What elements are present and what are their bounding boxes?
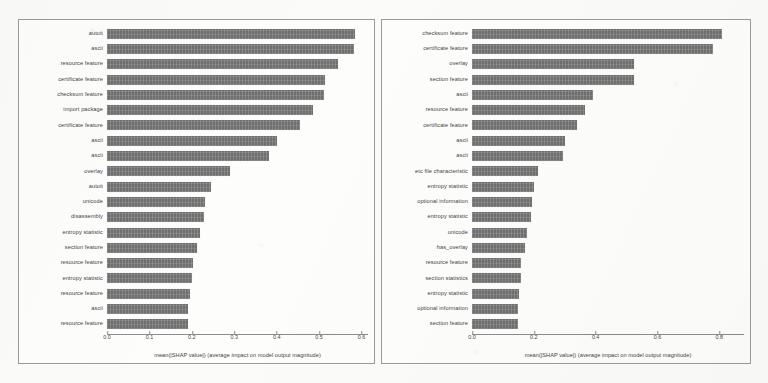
- bar: [472, 105, 585, 115]
- bar: [472, 90, 593, 100]
- bar-label: ascii: [382, 153, 472, 159]
- bar-row: entropy statistic: [19, 225, 374, 240]
- bar-row: entropy statistic: [382, 179, 750, 194]
- bar-row: entropy statistic: [382, 210, 750, 225]
- bar-row: ascii: [19, 301, 374, 316]
- bar-label: entropy statistic: [382, 184, 472, 190]
- bar: [107, 273, 192, 283]
- bar-label: unicode: [382, 230, 472, 236]
- bar-row: entropy statistic: [382, 286, 750, 301]
- bar-label: section feature: [382, 77, 472, 83]
- bar-row: entropy statistic: [19, 271, 374, 286]
- bar-row: unicode: [382, 225, 750, 240]
- bar-row: autoit: [19, 179, 374, 194]
- bar: [472, 243, 525, 253]
- bar-label: section feature: [19, 245, 107, 251]
- bar-label: optional information: [382, 306, 472, 312]
- x-tick-label: 0.2: [188, 335, 196, 340]
- shap-chart-left: autoitasciiresource featurecertificate f…: [18, 19, 375, 364]
- bar: [472, 289, 519, 299]
- bar-row: checksum feature: [382, 26, 750, 41]
- bar-label: resource feature: [382, 260, 472, 266]
- bar-label: ascii: [19, 153, 107, 159]
- x-tick-label: 0.6: [654, 335, 662, 340]
- bar-row: overlay: [382, 57, 750, 72]
- bar-row: resource feature: [19, 255, 374, 270]
- bar: [107, 258, 193, 268]
- bar: [472, 228, 527, 238]
- bar: [472, 319, 518, 329]
- x-tick-label: 0.1: [146, 335, 154, 340]
- bar: [472, 44, 713, 54]
- bar-label: ascii: [19, 138, 107, 144]
- bar-label: resource feature: [19, 260, 107, 266]
- bar: [472, 166, 538, 176]
- bar-label: ascii: [382, 138, 472, 144]
- bar-label: resource feature: [19, 321, 107, 327]
- plot-area-right: checksum featurecertificate featureoverl…: [382, 20, 750, 363]
- bar: [107, 120, 300, 130]
- bar: [472, 151, 563, 161]
- bar-row: section feature: [382, 72, 750, 87]
- bar: [107, 59, 338, 69]
- x-tick-label: 0.0: [103, 335, 111, 340]
- bar-label: checksum feature: [19, 92, 107, 98]
- bar-label: ascii: [382, 92, 472, 98]
- x-tick-label: 0.2: [530, 335, 538, 340]
- bar-label: unicode: [19, 199, 107, 205]
- bar-row: etc file characteristic: [382, 164, 750, 179]
- bar: [472, 197, 532, 207]
- bar-label: autoit: [19, 31, 107, 37]
- bar: [472, 212, 531, 222]
- x-axis-ticks-left: 0.00.10.20.30.40.50.6: [107, 335, 368, 345]
- bar-label: resource feature: [382, 107, 472, 113]
- bar: [107, 105, 313, 115]
- bar-label: overlay: [382, 61, 472, 67]
- bar-label: entropy statistic: [19, 276, 107, 282]
- bar: [107, 166, 230, 176]
- x-tick-label: 0.4: [592, 335, 600, 340]
- bar: [107, 289, 190, 299]
- bar-row: autoit: [19, 26, 374, 41]
- bar-row: overlay: [19, 164, 374, 179]
- bar-row: section statistics: [382, 271, 750, 286]
- bar-label: overlay: [19, 169, 107, 175]
- bar: [107, 243, 197, 253]
- bar-label: certificate feature: [382, 123, 472, 129]
- bar: [107, 136, 277, 146]
- bar-row: resource feature: [19, 317, 374, 332]
- bar-row: certificate feature: [382, 118, 750, 133]
- bar: [107, 197, 205, 207]
- bar-label: disassembly: [19, 214, 107, 220]
- bar-label: entropy statistic: [382, 214, 472, 220]
- bar-row: resource feature: [382, 102, 750, 117]
- bar: [472, 75, 634, 85]
- bar: [472, 29, 722, 39]
- x-axis-title-right: mean(|SHAP value|) (average impact on mo…: [382, 352, 750, 358]
- x-tick-label: 0.8: [716, 335, 724, 340]
- bar-row: has_overlay: [382, 240, 750, 255]
- bar: [472, 182, 534, 192]
- bar-label: ascii: [19, 306, 107, 312]
- x-tick-label: 0.3: [231, 335, 239, 340]
- bar-row: certificate feature: [382, 41, 750, 56]
- bar: [107, 212, 204, 222]
- bar: [472, 120, 577, 130]
- x-tick-label: 0.5: [315, 335, 323, 340]
- bar-row: section feature: [382, 317, 750, 332]
- bar: [472, 136, 565, 146]
- x-axis-ticks-right: 0.00.20.40.60.8: [472, 335, 744, 345]
- bar-label: entropy statistic: [382, 291, 472, 297]
- bar-label: certificate feature: [19, 123, 107, 129]
- bar: [107, 44, 354, 54]
- bar-label: checksum feature: [382, 31, 472, 37]
- bar-row: ascii: [382, 87, 750, 102]
- bar: [107, 29, 355, 39]
- bar-row: ascii: [382, 148, 750, 163]
- bar-label: ascii: [19, 46, 107, 52]
- bar-row: resource feature: [19, 57, 374, 72]
- bar: [107, 90, 324, 100]
- bar-label: autoit: [19, 184, 107, 190]
- bar: [472, 273, 521, 283]
- bar-label: certificate feature: [19, 77, 107, 83]
